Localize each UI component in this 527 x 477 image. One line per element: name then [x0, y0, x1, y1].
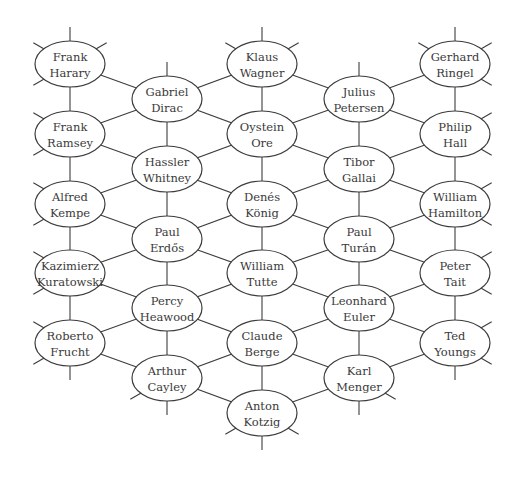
node-label-line1: Philip — [438, 120, 472, 134]
node-ellipse — [227, 390, 297, 436]
node-tait: PeterTait — [420, 250, 490, 296]
node-ringel: GerhardRingel — [420, 41, 490, 87]
node-kempe: AlfredKempe — [35, 181, 105, 227]
node-label-line2: Kotzig — [244, 415, 282, 429]
node-kotzig: AntonKotzig — [227, 390, 297, 436]
node-ellipse — [420, 250, 490, 296]
node-label-line1: Kazimierz — [41, 259, 99, 273]
node-kuratowski: KazimierzKuratowski — [35, 250, 105, 296]
node-label-line1: William — [433, 190, 477, 204]
node-label-line1: Denés — [244, 190, 280, 204]
node-ramsey: FrankRamsey — [35, 111, 105, 157]
node-label-line1: Frank — [53, 50, 89, 64]
node-ellipse — [132, 355, 202, 401]
node-gallai: TiborGallai — [324, 146, 394, 192]
node-label-line2: Frucht — [50, 345, 90, 359]
node-label-line2: Tait — [444, 275, 466, 289]
node-label-line2: Gallai — [342, 171, 376, 185]
node-ellipse — [420, 41, 490, 87]
node-hamilton: WilliamHamilton — [420, 181, 490, 227]
node-harary: FrankHarary — [35, 41, 105, 87]
node-konig: DenésKönig — [227, 181, 297, 227]
node-ellipse — [35, 111, 105, 157]
node-label-line2: Berge — [245, 345, 280, 359]
node-petersen: JuliusPetersen — [324, 76, 394, 122]
node-label-line2: Petersen — [333, 101, 385, 115]
node-ellipse — [132, 285, 202, 331]
node-label-line1: Gabriel — [145, 85, 188, 99]
node-ore: OysteinOre — [227, 111, 297, 157]
graph-diagram: FrankHararyFrankRamseyAlfredKempeKazimie… — [0, 0, 527, 477]
node-label-line2: Ringel — [436, 66, 474, 80]
node-label-line1: Oystein — [240, 120, 285, 134]
node-label-line1: Tibor — [343, 155, 375, 169]
node-ellipse — [35, 41, 105, 87]
node-dirac: GabrielDirac — [132, 76, 202, 122]
node-ellipse — [420, 320, 490, 366]
node-label-line1: William — [240, 259, 284, 273]
node-frucht: RobertoFrucht — [35, 320, 105, 366]
node-erdos: PaulErdős — [132, 216, 202, 262]
node-label-line2: Menger — [336, 380, 382, 394]
node-label-line1: Arthur — [147, 364, 187, 378]
node-ellipse — [227, 41, 297, 87]
node-label-line1: Julius — [342, 85, 376, 99]
node-youngs: TedYoungs — [420, 320, 490, 366]
node-label-line1: Roberto — [47, 329, 94, 343]
node-label-line1: Karl — [347, 364, 372, 378]
node-ellipse — [227, 250, 297, 296]
node-label-line1: Gerhard — [431, 50, 480, 64]
node-label-line2: Cayley — [147, 380, 187, 394]
node-euler: LeonhardEuler — [324, 285, 394, 331]
node-ellipse — [132, 76, 202, 122]
node-label-line1: Klaus — [246, 50, 279, 64]
node-label-line1: Anton — [244, 399, 280, 413]
node-whitney: HasslerWhitney — [132, 146, 202, 192]
node-menger: KarlMenger — [324, 355, 394, 401]
node-label-line2: Euler — [343, 310, 375, 324]
node-label-line2: Harary — [49, 66, 91, 80]
node-hall: PhilipHall — [420, 111, 490, 157]
node-label-line2: Turán — [342, 241, 377, 255]
node-label-line1: Peter — [440, 259, 471, 273]
node-ellipse — [324, 285, 394, 331]
node-label-line2: Kempe — [50, 206, 90, 220]
node-ellipse — [35, 250, 105, 296]
node-label-line2: Wagner — [240, 66, 285, 80]
node-label-line2: Dirac — [151, 101, 183, 115]
node-ellipse — [35, 320, 105, 366]
node-turan: PaulTurán — [324, 216, 394, 262]
node-ellipse — [227, 181, 297, 227]
node-ellipse — [132, 146, 202, 192]
node-ellipse — [132, 216, 202, 262]
node-label-line1: Alfred — [51, 190, 89, 204]
node-ellipse — [324, 76, 394, 122]
node-label-line1: Paul — [346, 225, 371, 239]
node-label-line2: Ore — [251, 136, 273, 150]
node-label-line1: Hassler — [145, 155, 190, 169]
node-label-line1: Paul — [154, 225, 179, 239]
node-label-line2: Erdős — [150, 241, 184, 255]
node-label-line1: Claude — [242, 329, 283, 343]
node-label-line2: Youngs — [433, 345, 476, 359]
node-label-line2: Tutte — [246, 275, 277, 289]
node-ellipse — [227, 320, 297, 366]
node-ellipse — [324, 216, 394, 262]
node-label-line2: Heawood — [140, 310, 195, 324]
node-label-line2: Hamilton — [428, 206, 483, 220]
node-wagner: KlausWagner — [227, 41, 297, 87]
node-heawood: PercyHeawood — [132, 285, 202, 331]
node-label-line2: Hall — [443, 136, 468, 150]
node-ellipse — [227, 111, 297, 157]
node-label-line1: Ted — [445, 329, 467, 343]
node-berge: ClaudeBerge — [227, 320, 297, 366]
node-cayley: ArthurCayley — [132, 355, 202, 401]
node-label-line1: Frank — [53, 120, 89, 134]
node-label-line2: König — [245, 206, 279, 220]
node-tutte: WilliamTutte — [227, 250, 297, 296]
node-ellipse — [324, 146, 394, 192]
node-label-line2: Kuratowski — [37, 275, 103, 289]
node-label-line1: Leonhard — [331, 294, 388, 308]
node-ellipse — [420, 111, 490, 157]
node-label-line1: Percy — [151, 294, 184, 308]
